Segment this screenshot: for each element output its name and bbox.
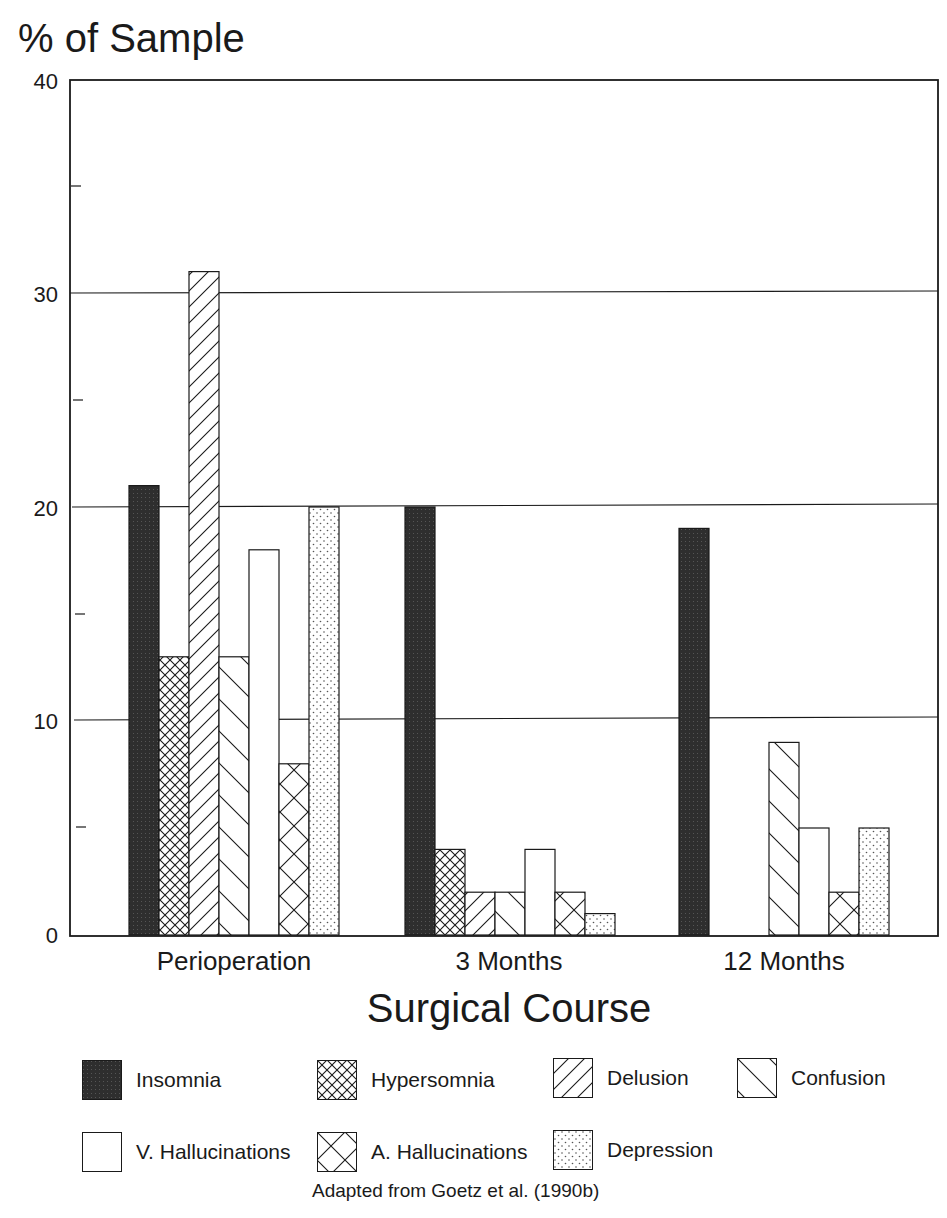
insomnia-swatch-icon [82, 1060, 122, 1100]
legend-item-a-hallucinations: A. Hallucinations [317, 1132, 527, 1172]
bar-insomnia-12-months [679, 528, 709, 935]
bar-chart [0, 0, 947, 1218]
bars [129, 272, 889, 935]
legend-item-hypersomnia: Hypersomnia [317, 1060, 495, 1100]
x-axis-title: Surgical Course [0, 986, 947, 1031]
x-category-3-months: 3 Months [456, 946, 563, 977]
bar-insomnia-perioperation [129, 486, 159, 935]
legend-item-v-hallucinations: V. Hallucinations [82, 1132, 291, 1172]
bar-depression-12-months [859, 828, 889, 935]
legend-item-insomnia: Insomnia [82, 1060, 221, 1100]
bar-v-hallucinations-perioperation [249, 550, 279, 935]
confusion-swatch-icon [737, 1058, 777, 1098]
bar-depression-3-months [585, 914, 615, 935]
bar-a-hallucinations-12-months [829, 892, 859, 935]
legend-item-depression: Depression [553, 1130, 713, 1170]
bar-confusion-12-months [769, 742, 799, 935]
source-caption: Adapted from Goetz et al. (1990b) [312, 1180, 599, 1202]
bar-v-hallucinations-3-months [525, 849, 555, 935]
bar-a-hallucinations-perioperation [279, 764, 309, 935]
bar-hypersomnia-3-months [435, 849, 465, 935]
legend-item-delusion: Delusion [553, 1058, 689, 1098]
bar-insomnia-3-months [405, 507, 435, 935]
hypersomnia-swatch-icon [317, 1060, 357, 1100]
bar-confusion-3-months [495, 892, 525, 935]
delusion-swatch-icon [553, 1058, 593, 1098]
bar-delusion-3-months [465, 892, 495, 935]
bar-v-hallucinations-12-months [799, 828, 829, 935]
bar-depression-perioperation [309, 507, 339, 935]
depression-swatch-icon [553, 1130, 593, 1170]
v-hallucinations-swatch-icon [82, 1132, 122, 1172]
bar-confusion-perioperation [219, 657, 249, 935]
bar-a-hallucinations-3-months [555, 892, 585, 935]
x-category-perioperation: Perioperation [157, 946, 312, 977]
x-category-12-months: 12 Months [723, 946, 844, 977]
bar-delusion-perioperation [189, 272, 219, 935]
legend-item-confusion: Confusion [737, 1058, 886, 1098]
bar-hypersomnia-perioperation [159, 657, 189, 935]
a-hallucinations-swatch-icon [317, 1132, 357, 1172]
